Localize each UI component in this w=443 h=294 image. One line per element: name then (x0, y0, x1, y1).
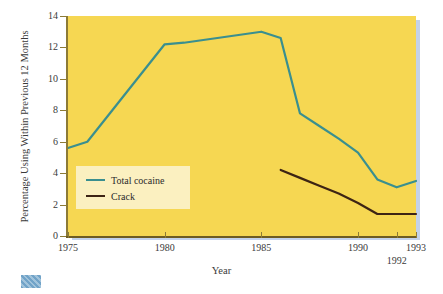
y-tick-mark (60, 16, 66, 17)
legend-swatch-total-cocaine (86, 179, 105, 181)
y-tick-label: 6 (38, 137, 58, 147)
series-line-total-cocaine (68, 32, 416, 188)
x-tick-mark (165, 232, 166, 238)
y-tick-label: 4 (38, 168, 58, 178)
legend-item-total-cocaine: Total cocaine (86, 173, 164, 187)
x-tick-mark (261, 232, 262, 238)
y-axis-line (66, 16, 68, 238)
chart-figure: Total cocaine Crack 02468101214 19751980… (0, 0, 443, 294)
y-tick-mark (60, 47, 66, 48)
plot-area: Total cocaine Crack (68, 16, 416, 236)
scan-artifact-thumbnail (21, 275, 41, 288)
series-line-crack (281, 170, 416, 214)
y-tick-mark (60, 236, 66, 237)
legend-item-crack: Crack (86, 189, 135, 203)
y-tick-mark (60, 205, 66, 206)
y-tick-label: 0 (38, 231, 58, 241)
x-tick-mark (68, 232, 69, 238)
x-tick-label: 1975 (48, 242, 88, 253)
x-tick-mark (397, 232, 398, 238)
legend-swatch-crack (86, 195, 105, 197)
y-tick-label: 14 (38, 11, 58, 21)
x-tick-label: 1993 (396, 242, 436, 253)
legend-label-crack: Crack (111, 191, 135, 202)
y-tick-mark (60, 110, 66, 111)
y-tick-mark (60, 142, 66, 143)
x-tick-label: 1985 (241, 242, 281, 253)
y-axis-title: Percentage Using Within Previous 12 Mont… (19, 7, 30, 247)
x-axis-title: Year (0, 265, 443, 276)
x-tick-label: 1980 (145, 242, 185, 253)
y-tick-mark (60, 79, 66, 80)
y-tick-label: 12 (38, 42, 58, 52)
chart-legend: Total cocaine Crack (76, 166, 190, 209)
x-axis-line (66, 236, 416, 238)
x-tick-label: 1990 (338, 242, 378, 253)
y-tick-label: 8 (38, 105, 58, 115)
legend-label-total-cocaine: Total cocaine (111, 175, 164, 186)
y-tick-label: 2 (38, 200, 58, 210)
x-tick-mark (358, 232, 359, 238)
y-tick-label: 10 (38, 74, 58, 84)
y-tick-mark (60, 173, 66, 174)
x-tick-mark (416, 232, 417, 238)
